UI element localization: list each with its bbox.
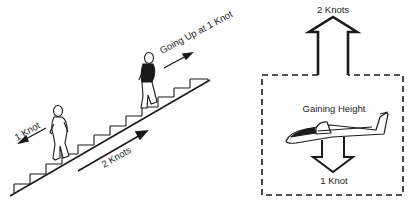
escalator-illustration: [10, 79, 210, 196]
escalator-base-line: [10, 80, 210, 196]
rising-air-arrow: [309, 17, 357, 75]
sink-arrow: [313, 137, 353, 172]
glider-icon: [286, 112, 388, 143]
walker-ascending-figure: [139, 53, 157, 109]
label-rising-two-knots: 2 Knots: [317, 4, 349, 15]
caption-going-up: Going Up at 1 Knot: [158, 8, 235, 56]
label-gaining-height: Gaining Height: [303, 103, 366, 114]
walker-descending-figure: [50, 106, 69, 161]
diagram-canvas: Going Up at 1 Knot 1 Knot 2 Knots 2 Knot…: [0, 0, 414, 207]
caption-two-knots-escalator: 2 Knots: [100, 144, 134, 170]
label-sink-one-knot: 1 Knot: [320, 175, 348, 186]
arrow-going-up: [164, 53, 192, 68]
